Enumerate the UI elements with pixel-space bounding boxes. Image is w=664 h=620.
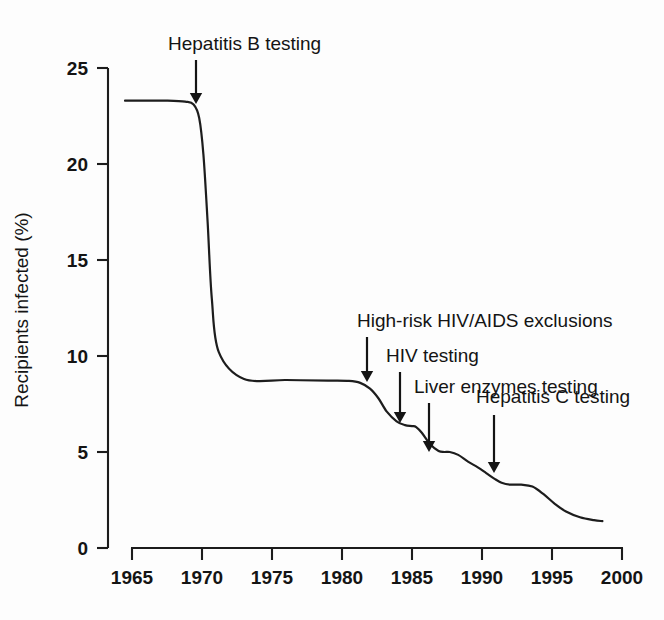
y-axis-tick-labels: 0510152025 — [67, 58, 89, 559]
x-axis-tick-labels: 19651970197519801985199019952000 — [111, 567, 643, 588]
annotation-hepatitis-b-testing: Hepatitis B testing — [168, 33, 321, 104]
x-tick-label: 1970 — [181, 567, 223, 588]
annotation-label: Hepatitis C testing — [476, 386, 630, 407]
y-tick-label: 25 — [67, 58, 89, 79]
x-tick-label: 1980 — [321, 567, 363, 588]
y-tick-label: 20 — [67, 154, 88, 175]
chart-figure: 0510152025 19651970197519801985199019952… — [0, 0, 664, 620]
x-axis-ticks — [132, 548, 622, 560]
line-chart-canvas: 0510152025 19651970197519801985199019952… — [0, 0, 664, 620]
annotations-group: Hepatitis B testingHigh-risk HIV/AIDS ex… — [168, 33, 630, 473]
annotation-label: High-risk HIV/AIDS exclusions — [357, 310, 613, 331]
annotation-label: HIV testing — [386, 345, 479, 366]
y-tick-label: 15 — [67, 250, 89, 271]
x-tick-label: 1995 — [531, 567, 574, 588]
y-tick-label: 5 — [77, 442, 88, 463]
x-tick-label: 1985 — [391, 567, 434, 588]
x-tick-label: 1990 — [461, 567, 503, 588]
annotation-hepatitis-c-testing: Hepatitis C testing — [476, 386, 630, 473]
y-axis-title: Recipients infected (%) — [11, 212, 32, 407]
y-tick-label: 10 — [67, 346, 88, 367]
x-tick-label: 1965 — [111, 567, 154, 588]
annotation-label: Hepatitis B testing — [168, 33, 321, 54]
x-tick-label: 2000 — [601, 567, 643, 588]
annotation-arrow-head — [488, 462, 500, 473]
annotation-arrow-head — [361, 371, 373, 382]
y-axis: 0510152025 — [67, 58, 108, 559]
y-axis-ticks — [97, 68, 108, 548]
x-tick-label: 1975 — [251, 567, 294, 588]
x-axis: 19651970197519801985199019952000 — [111, 548, 643, 588]
y-tick-label: 0 — [77, 538, 88, 559]
